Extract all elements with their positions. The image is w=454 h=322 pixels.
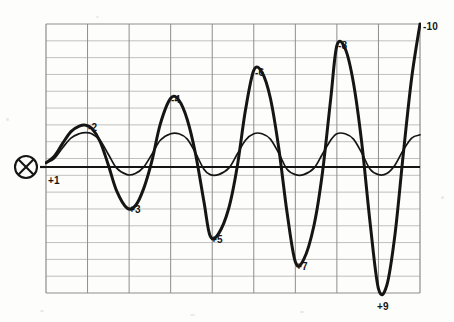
scan-speck xyxy=(190,314,195,316)
scan-speck xyxy=(6,118,9,121)
peak-label-plus5: +5 xyxy=(211,235,223,245)
scan-speck xyxy=(40,310,44,312)
peak-label-minus2: -2 xyxy=(88,123,97,133)
peak-label-plus3: +3 xyxy=(129,205,141,215)
peak-label-plus7: +7 xyxy=(296,262,308,272)
peak-label-plus1: +1 xyxy=(48,176,60,186)
scan-speck xyxy=(441,196,444,199)
scan-speck xyxy=(96,16,99,18)
circled-x-marker xyxy=(15,156,37,178)
waveform-svg xyxy=(0,0,454,322)
peak-label-plus9: +9 xyxy=(377,302,389,312)
peak-label-minus8: -8 xyxy=(338,41,347,51)
peak-label-minus6: -6 xyxy=(255,68,264,78)
peak-label-minus10: -10 xyxy=(423,22,438,32)
scan-speck xyxy=(300,311,304,313)
peak-label-minus4: -4 xyxy=(171,95,180,105)
series-curve-growing-oscillation xyxy=(46,24,420,295)
waveform-figure xyxy=(0,0,454,322)
series-group xyxy=(46,24,420,295)
